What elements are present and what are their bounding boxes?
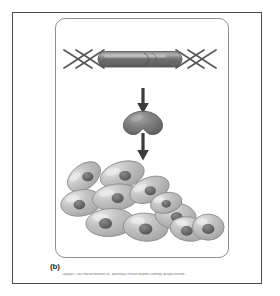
cell-nucleus — [74, 200, 86, 209]
cell-cluster — [56, 148, 226, 254]
cell-nucleus — [82, 172, 93, 181]
cell — [192, 214, 224, 240]
cell-nucleus — [145, 186, 156, 195]
cell-nucleus — [162, 200, 171, 208]
dna-double-helix-with-gene — [60, 44, 220, 88]
cell-nucleus — [202, 224, 214, 234]
panel-label: (b) — [50, 262, 60, 272]
cell-nucleus — [181, 226, 193, 236]
cell-nucleus — [99, 218, 112, 229]
cell-nucleus — [139, 224, 152, 235]
cell-highlight — [197, 218, 208, 225]
figure-root: (b) Copyright © 2005 Pearson Education, … — [0, 0, 280, 296]
cell-nucleus — [119, 171, 131, 181]
cell-nucleus — [112, 193, 124, 203]
copyright-notice: Copyright © 2005 Pearson Education, Inc.… — [62, 273, 242, 277]
gene-segment-bar — [98, 52, 182, 68]
